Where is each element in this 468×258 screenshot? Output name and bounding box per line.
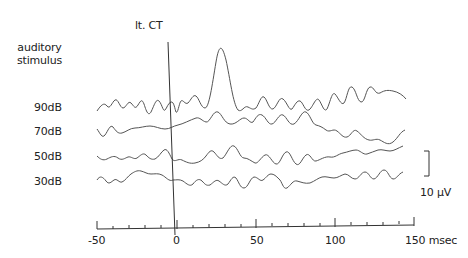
scale-bar-label: 10 µV bbox=[420, 186, 451, 199]
x-tick-50: 50 bbox=[250, 234, 264, 247]
x-tick-neg50: -50 bbox=[88, 234, 105, 247]
trace-30db bbox=[97, 170, 403, 188]
plot-area bbox=[0, 0, 468, 258]
trace-50db bbox=[97, 146, 403, 165]
x-tick-100: 100 bbox=[325, 234, 345, 247]
trace-70db bbox=[97, 112, 405, 144]
x-tick-150: 150 msec bbox=[405, 234, 457, 247]
x-tick-0: 0 bbox=[173, 234, 180, 247]
stimulus-onset-line bbox=[168, 42, 175, 235]
x-axis bbox=[97, 217, 414, 229]
scale-bar bbox=[424, 151, 429, 176]
trace-90db bbox=[97, 48, 406, 113]
